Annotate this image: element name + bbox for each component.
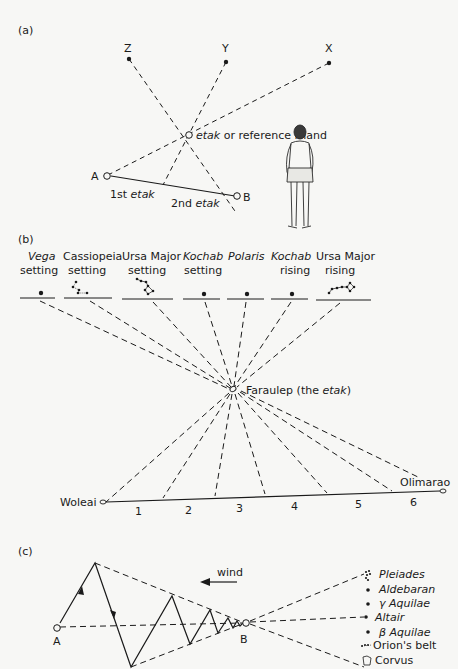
point-a-c-label: A — [53, 635, 61, 648]
segment-3-label: 3 — [236, 502, 243, 515]
etak-diagram: (a) Z Y X etak or reference island A B 1… — [0, 0, 458, 669]
first-etak-label: 1st etak — [110, 188, 155, 201]
altair-star-icon — [364, 615, 368, 619]
star-x-label: X — [325, 42, 333, 55]
segment-6-label: 6 — [410, 496, 417, 509]
olimarao-label: Olimarao — [400, 476, 450, 489]
star-points-labels: Vega setting Cassiopeia setting Ursa Maj… — [20, 250, 376, 277]
star-point-3-state: setting — [184, 264, 222, 277]
direction-arrow-down-icon — [110, 610, 116, 619]
point-a-label: A — [91, 170, 99, 183]
woleai-label: Woleai — [60, 496, 97, 509]
star-pleiades-label: Pleiades — [379, 568, 425, 581]
beta-aquilae-star-icon — [366, 630, 370, 634]
segment-4-label: 4 — [291, 500, 298, 513]
aldebaran-star-icon — [366, 588, 370, 592]
cassiopeia-constellation-icon — [72, 281, 89, 295]
star-point-2-name: Ursa Major — [122, 250, 182, 263]
star-y-label: Y — [221, 42, 229, 55]
star-altair-label: Altair — [374, 611, 406, 624]
corvus-constellation-icon — [363, 656, 371, 665]
point-b-label: B — [243, 191, 251, 204]
ursa-major-rising-icon — [328, 282, 356, 295]
star-y-dot — [224, 60, 228, 64]
star-list: Pleiades Aldebaran γ Aquilae Altair β Aq… — [361, 568, 437, 667]
star-point-3-name: Kochab — [183, 250, 223, 263]
star-aldebaran-label: Aldebaran — [378, 583, 435, 596]
star-glyphs — [39, 278, 356, 296]
wind-label: wind — [217, 566, 243, 579]
segment-2-label: 2 — [185, 504, 192, 517]
tacking-course — [60, 563, 243, 667]
star-point-6-name: Ursa Major — [316, 250, 376, 263]
star-point-5-state: rising — [280, 264, 310, 277]
orions-belt-icon — [361, 644, 372, 647]
reference-island-label: etak or reference island — [196, 129, 327, 142]
star-point-1-state: setting — [68, 264, 106, 277]
point-a-icon — [104, 173, 111, 180]
gamma-aquilae-star-icon — [366, 602, 370, 606]
horizon-segments — [20, 298, 371, 300]
star-point-1-name: Cassiopeia — [63, 250, 122, 263]
star-point-0-name: Vega — [28, 250, 56, 263]
point-b-c-label: B — [240, 633, 248, 646]
star-point-2-state: setting — [128, 264, 166, 277]
star-corvus-label: Corvus — [375, 654, 413, 667]
woleai-olimarao-course — [106, 491, 440, 502]
segment-1-label: 1 — [135, 505, 142, 518]
kochab-rising-star-icon — [290, 292, 294, 296]
star-z-label: Z — [124, 42, 132, 55]
ursa-major-setting-icon — [136, 278, 155, 296]
vega-star-icon — [39, 291, 43, 295]
star-beta-aquilae-label: β Aquilae — [378, 626, 431, 639]
star-x-dot — [327, 61, 331, 65]
etak-segment-lines — [106, 391, 420, 502]
segment-5-label: 5 — [355, 498, 362, 511]
star-point-6-state: rising — [325, 264, 355, 277]
panel-b-label: (b) — [18, 233, 34, 246]
faraulep-label: Faraulep (the etak) — [246, 384, 351, 397]
star-bearing-lines — [40, 301, 340, 389]
star-point-4-name: Polaris — [228, 250, 265, 263]
star-z-dot — [127, 57, 131, 61]
star-orions-belt-label: Orion's belt — [373, 639, 437, 652]
star-point-0-state: setting — [20, 264, 58, 277]
reference-island-icon — [186, 132, 193, 139]
panel-a-label: (a) — [18, 24, 33, 37]
olimarao-island-icon — [440, 489, 446, 493]
wind-arrow-icon — [200, 578, 237, 586]
woleai-island-icon — [100, 500, 106, 504]
kochab-setting-star-icon — [202, 292, 206, 296]
star-gamma-aquilae-label: γ Aquilae — [379, 597, 430, 610]
polaris-star-icon — [245, 292, 249, 296]
point-b-c-icon — [243, 620, 250, 627]
point-b-icon — [234, 193, 241, 200]
point-a-c-icon — [54, 625, 61, 632]
second-etak-label: 2nd etak — [171, 197, 220, 210]
panel-c-label: (c) — [18, 545, 33, 558]
pleiades-cluster-icon — [365, 570, 371, 581]
star-point-5-name: Kochab — [271, 250, 311, 263]
